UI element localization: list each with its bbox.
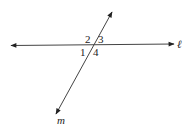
angle-4-label: 4 xyxy=(93,46,99,58)
angle-3-label: 3 xyxy=(98,33,104,45)
line-m-label: m xyxy=(57,114,65,126)
angle-2-label: 2 xyxy=(85,33,91,45)
line-m xyxy=(56,12,112,114)
angle-1-label: 1 xyxy=(80,46,86,58)
line-l-label: ℓ xyxy=(177,38,182,50)
intersecting-lines-diagram: ℓ m 2 3 1 4 xyxy=(0,0,191,130)
